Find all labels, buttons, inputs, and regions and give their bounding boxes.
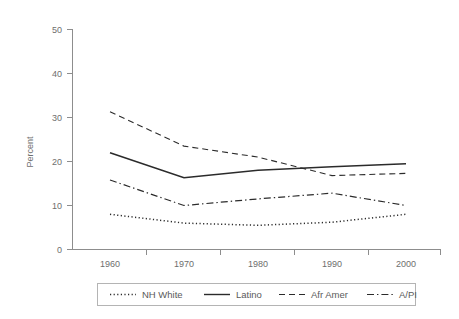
legend-item-api[interactable]: A/PI xyxy=(367,289,417,300)
legend-label-latino: Latino xyxy=(236,289,262,300)
x-tick-label-2000: 2000 xyxy=(396,259,416,269)
legend-label-nh-white: NH White xyxy=(142,289,183,300)
y-axis-tick-labels: 0 10 20 30 40 50 xyxy=(52,25,62,255)
x-tick-label-1990: 1990 xyxy=(322,259,342,269)
y-tick-label-10: 10 xyxy=(52,201,62,211)
x-axis-ticks xyxy=(147,250,441,256)
line-chart: Percent 0 10 20 30 40 50 xyxy=(0,0,459,319)
x-tick-label-1980: 1980 xyxy=(248,259,268,269)
y-tick-label-0: 0 xyxy=(57,245,62,255)
legend-item-afr-amer[interactable]: Afr Amer xyxy=(279,289,348,300)
chart-legend: NH White Latino Afr Amer A/PI xyxy=(98,284,417,306)
legend-label-afr-amer: Afr Amer xyxy=(311,289,348,300)
y-tick-label-40: 40 xyxy=(52,69,62,79)
series-line-latino xyxy=(110,153,406,178)
x-tick-label-1960: 1960 xyxy=(100,259,120,269)
legend-item-latino[interactable]: Latino xyxy=(204,289,262,300)
y-tick-label-50: 50 xyxy=(52,25,62,35)
x-axis-tick-labels: 1960 1970 1980 1990 2000 xyxy=(100,259,416,269)
y-tick-label-20: 20 xyxy=(52,157,62,167)
chart-figure: Percent 0 10 20 30 40 50 xyxy=(0,0,459,319)
series-group xyxy=(110,112,406,226)
series-line-a-pi xyxy=(110,180,406,206)
legend-label-api: A/PI xyxy=(399,289,417,300)
legend-item-nh-white[interactable]: NH White xyxy=(110,289,183,300)
y-axis-ticks xyxy=(67,30,73,250)
y-axis-title: Percent xyxy=(25,136,35,168)
x-tick-label-1970: 1970 xyxy=(174,259,194,269)
y-tick-label-30: 30 xyxy=(52,113,62,123)
series-line-nh-white xyxy=(110,214,406,225)
